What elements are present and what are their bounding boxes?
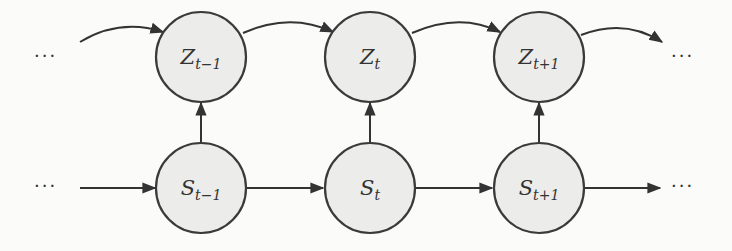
node-z-curr: Zt [325, 12, 415, 102]
node-z-prev: Zt−1 [156, 12, 246, 102]
node-z-prev-subscript: t−1 [195, 56, 221, 72]
node-z-prev-label: Z [180, 45, 196, 69]
edge-z-curr-to-z-next [412, 22, 500, 33]
node-s-next: St+1 [494, 143, 584, 233]
node-s-next-subscript: t+1 [533, 187, 559, 203]
edge-z-prev-to-z-curr [243, 22, 333, 33]
node-z-next-subscript: t+1 [533, 56, 559, 72]
ellipsis-top-right: ··· [671, 45, 694, 66]
edge-z-next-to-ellipsis [581, 28, 662, 42]
edge-ellipsis-to-z-prev [80, 27, 163, 42]
node-s-curr-subscript: t [374, 187, 380, 203]
node-s-prev-label: S [181, 176, 195, 200]
node-z-curr-subscript: t [374, 56, 380, 72]
node-z-next: Zt+1 [494, 12, 584, 102]
node-s-curr-label: S [360, 176, 374, 200]
dbn-diagram: ··· ··· ··· ··· Zt−1 Zt Zt+1 St−1 St St+… [0, 0, 732, 251]
node-s-prev: St−1 [156, 143, 246, 233]
ellipsis-bottom-left: ··· [34, 175, 57, 196]
node-z-curr-label: Z [359, 45, 375, 69]
node-s-prev-subscript: t−1 [195, 187, 221, 203]
ellipsis-bottom-right: ··· [671, 175, 694, 196]
node-s-next-label: S [519, 176, 533, 200]
node-z-next-label: Z [518, 45, 534, 69]
node-s-curr: St [325, 143, 415, 233]
ellipsis-top-left: ··· [34, 45, 57, 66]
